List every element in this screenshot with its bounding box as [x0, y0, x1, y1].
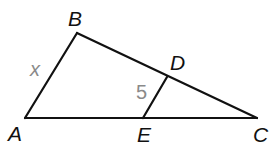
vertex-label-e: E — [137, 123, 152, 146]
measure-label-ed: 5 — [136, 81, 147, 103]
vertex-label-b: B — [68, 7, 82, 30]
measure-label-ab: x — [29, 58, 41, 80]
vertex-label-c: C — [253, 123, 269, 146]
vertex-label-a: A — [6, 122, 22, 145]
vertex-label-d: D — [170, 51, 185, 74]
segment-bc — [77, 33, 257, 118]
triangle-diagram: B A E D C x 5 — [0, 0, 274, 150]
